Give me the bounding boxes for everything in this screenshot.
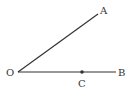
ray-oa	[18, 14, 98, 72]
label-o: O	[6, 67, 14, 78]
label-a: A	[99, 5, 108, 16]
angle-diagram: O A B C	[0, 0, 134, 88]
label-c: C	[78, 78, 86, 88]
point-c-dot	[80, 70, 84, 74]
label-b: B	[118, 67, 125, 78]
